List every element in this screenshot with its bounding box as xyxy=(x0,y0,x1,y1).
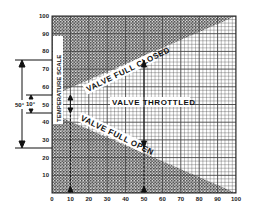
x-tick-label: 40 xyxy=(122,196,129,202)
x-tick-label: 10 xyxy=(67,196,74,202)
y-tick-label: 40 xyxy=(42,119,49,125)
arrow-down-icon xyxy=(29,109,33,113)
x-tick-label: 60 xyxy=(159,196,166,202)
y-tick-label: 80 xyxy=(42,48,49,54)
y-tick-label: 90 xyxy=(42,31,49,37)
x-tick-label: 70 xyxy=(177,196,184,202)
y-tick-label: 30 xyxy=(42,137,49,143)
y-tick-label: 20 xyxy=(42,155,49,161)
x-tick-label: 90 xyxy=(214,196,221,202)
x-tick-label: 20 xyxy=(85,196,92,202)
arrow-up-icon xyxy=(29,95,33,99)
y-axis: 102030405060708090100 xyxy=(39,13,50,178)
y-tick-label: 60 xyxy=(42,84,49,90)
valve-chart: 102030405060708090100 010203040506070809… xyxy=(0,0,258,216)
x-axis: 0102030405060708090100 xyxy=(50,196,241,202)
x-tick-label: 100 xyxy=(231,196,242,202)
y-tick-label: 50 xyxy=(42,102,49,108)
span-50-label: 50° xyxy=(15,102,25,108)
arrow-up-icon xyxy=(19,60,25,67)
temperature-scale-label: TEMPERATURE SCALE xyxy=(56,55,62,122)
label-valve-throttled: VALVE THROTTLED xyxy=(112,98,196,107)
span-10-label: 10° xyxy=(26,101,36,107)
y-tick-label: 100 xyxy=(39,13,50,19)
x-tick-label: 80 xyxy=(196,196,203,202)
y-tick-label: 10 xyxy=(42,172,49,178)
x-tick-label: 0 xyxy=(50,196,54,202)
y-tick-label: 70 xyxy=(42,66,49,72)
x-tick-label: 50 xyxy=(141,196,148,202)
arrow-down-icon xyxy=(19,141,25,148)
x-tick-label: 30 xyxy=(104,196,111,202)
